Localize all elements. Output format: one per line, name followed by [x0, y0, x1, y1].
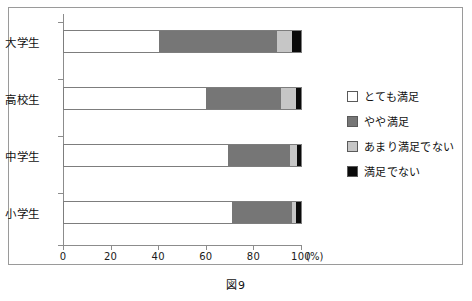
bar-segment	[277, 31, 291, 52]
bar-row	[63, 144, 302, 167]
chart-legend: とても満足やや満足あまり満足でない満足でない	[347, 88, 454, 188]
bar-segment	[159, 31, 278, 52]
category-label-2: 中学生	[5, 148, 57, 164]
bar-segment	[296, 88, 301, 109]
legend-item: やや満足	[347, 113, 454, 129]
bar-segment	[232, 202, 291, 223]
x-axis-unit-label: (%)	[306, 251, 323, 262]
x-tick-label-40: 40	[152, 251, 165, 262]
x-tick-label-20: 20	[104, 251, 117, 262]
bar-segment	[64, 202, 232, 223]
bar-segment	[290, 145, 297, 166]
legend-swatch-icon	[347, 116, 358, 127]
legend-item: とても満足	[347, 88, 454, 104]
x-tick-0	[63, 245, 64, 250]
x-tick-label-0: 0	[60, 251, 67, 262]
legend-item: あまり満足でない	[347, 138, 454, 154]
y-tick-0	[58, 22, 63, 23]
x-axis-line	[63, 245, 302, 246]
legend-label: やや満足	[364, 113, 409, 129]
x-tick-100	[301, 245, 302, 250]
bar-segment	[206, 88, 281, 109]
x-tick-label-60: 60	[199, 251, 212, 262]
legend-label: 満足でない	[364, 163, 421, 179]
bar-segment	[297, 145, 301, 166]
x-tick-60	[206, 245, 207, 250]
legend-label: とても満足	[364, 88, 420, 104]
bar-row	[63, 87, 302, 110]
bar-segment	[228, 145, 291, 166]
bar-segment	[64, 88, 206, 109]
legend-label: あまり満足でない	[364, 138, 454, 154]
y-tick-2	[58, 136, 63, 137]
legend-swatch-icon	[347, 91, 358, 102]
category-label-3: 小学生	[5, 205, 57, 221]
x-tick-label-80: 80	[247, 251, 260, 262]
legend-swatch-icon	[347, 166, 358, 177]
category-label-1: 高校生	[5, 91, 57, 107]
figure-caption: 図9	[0, 276, 472, 292]
bar-segment	[292, 31, 301, 52]
bar-row	[63, 30, 302, 53]
category-label-0: 大学生	[5, 34, 57, 50]
bar-segment	[64, 145, 228, 166]
bar-segment	[281, 88, 296, 109]
legend-swatch-icon	[347, 141, 358, 152]
y-tick-3	[58, 193, 63, 194]
y-tick-1	[58, 79, 63, 80]
x-tick-80	[253, 245, 254, 250]
bar-segment	[296, 202, 301, 223]
bar-segment	[64, 31, 159, 52]
x-tick-20	[111, 245, 112, 250]
legend-item: 満足でない	[347, 163, 454, 179]
x-tick-40	[158, 245, 159, 250]
figure-container: 020406080100 (%) 大学生高校生中学生小学生 とても満足やや満足あ…	[0, 0, 472, 301]
bar-row	[63, 201, 302, 224]
